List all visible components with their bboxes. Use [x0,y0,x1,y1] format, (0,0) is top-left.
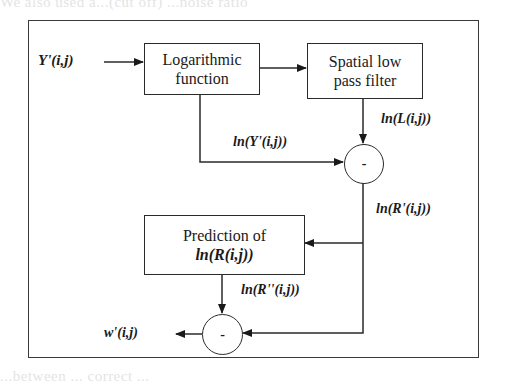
prediction-block: Prediction of ln(R(i,j)) [144,215,305,275]
spatial-block-line2: pass filter [334,71,397,90]
spatial-low-pass-filter-block: Spatial low pass filter [307,43,423,99]
logarithmic-block-line2: function [175,69,228,88]
prediction-block-line1: Prediction of [183,226,266,245]
minus-sign-top: - [362,156,367,172]
minus-sign-bottom: - [220,327,225,343]
subtract-operator-bottom: - [202,314,243,355]
input-label: Y'(i,j) [38,52,73,69]
spatial-block-line1: Spatial low [329,52,401,71]
background-text-line-bottom: ...between ... correct ... [0,368,505,385]
logarithmic-block-line1: Logarithmic [162,50,241,69]
prediction-block-line2: ln(R(i,j)) [195,245,253,264]
signal-ln-L-label: ln(L(i,j)) [381,111,431,127]
signal-ln-R-double-prime-label: ln(R''(i,j)) [241,282,300,298]
signal-ln-Y-label: ln(Y'(i,j)) [233,134,287,150]
subtract-operator-top: - [344,144,384,184]
logarithmic-function-block: Logarithmic function [144,43,260,95]
signal-ln-R-prime-label: ln(R'(i,j)) [376,201,431,217]
output-label: w'(i,j) [104,325,138,341]
